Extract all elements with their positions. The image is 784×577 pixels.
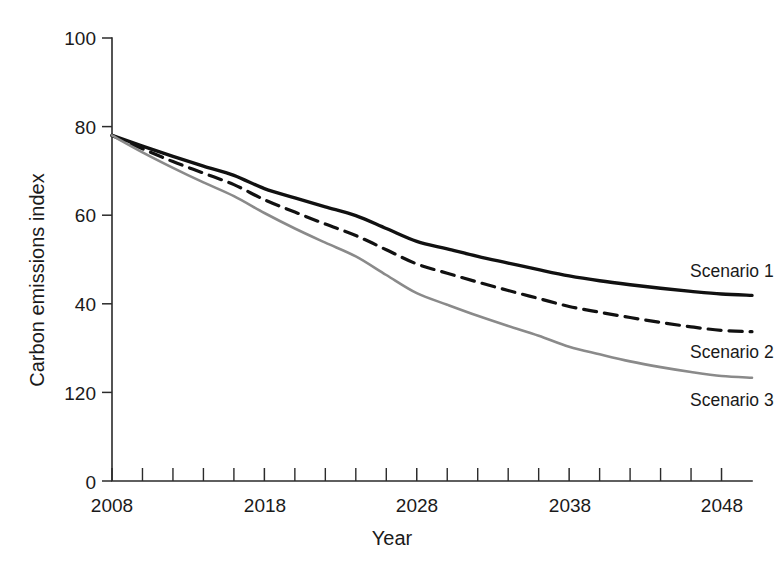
y-tick-label-100: 100 xyxy=(64,28,96,49)
series-label-scenario-3: Scenario 3 xyxy=(690,390,774,410)
y-tick-label-60: 60 xyxy=(75,205,96,226)
x-axis-ticks xyxy=(112,468,722,481)
x-axis-title: Year xyxy=(372,527,413,549)
y-tick-label-20: 120 xyxy=(64,383,96,404)
y-axis-title: Carbon emissions index xyxy=(26,173,48,386)
x-tick-label-2028: 2028 xyxy=(396,495,438,516)
y-tick-label-0: 0 xyxy=(85,472,96,493)
x-tick-label-2018: 2018 xyxy=(244,495,286,516)
series-label-scenario-1: Scenario 1 xyxy=(690,261,774,281)
x-tick-label-2038: 2038 xyxy=(549,495,591,516)
chart-figure: 100 80 60 40 120 0 2008 2018 2028 2038 2… xyxy=(0,0,784,577)
x-tick-label-2048: 2048 xyxy=(701,495,743,516)
y-tick-label-40: 40 xyxy=(75,294,96,315)
x-tick-label-2008: 2008 xyxy=(91,495,133,516)
series-label-scenario-2: Scenario 2 xyxy=(690,342,774,362)
line-chart: 100 80 60 40 120 0 2008 2018 2028 2038 2… xyxy=(0,0,784,577)
y-tick-label-80: 80 xyxy=(75,117,96,138)
